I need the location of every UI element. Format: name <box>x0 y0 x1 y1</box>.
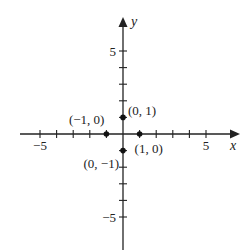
x-axis-label: x <box>229 138 237 153</box>
point-label: (−1, 0) <box>69 112 105 127</box>
points: (0, 1)(−1, 0)(1, 0)(0, −1) <box>69 103 163 170</box>
point-label: (0, 1) <box>128 103 156 118</box>
data-point <box>120 115 126 121</box>
y-tick-label: −5 <box>102 210 116 225</box>
x-tick-label: 5 <box>203 138 210 153</box>
point-label: (1, 0) <box>135 141 163 156</box>
point-label: (0, −1) <box>84 156 120 171</box>
coordinate-plane: −555−5 (0, 1)(−1, 0)(1, 0)(0, −1) x y <box>0 0 251 252</box>
x-tick-label: −5 <box>33 138 47 153</box>
y-axis-arrow-icon <box>119 17 128 27</box>
data-point <box>137 131 143 137</box>
y-axis-label: y <box>129 14 138 29</box>
data-point <box>104 131 110 137</box>
y-tick-label: 5 <box>110 44 117 59</box>
data-point <box>120 148 126 154</box>
axes <box>20 17 240 250</box>
